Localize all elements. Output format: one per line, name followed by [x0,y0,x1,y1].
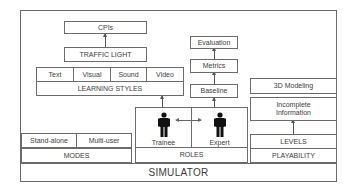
learning-style-video: Video [146,67,184,82]
bidirectional-arrow-icon [176,120,201,121]
arrow-up-icon [214,48,215,59]
playability-box: PLAYABILITY [250,148,337,163]
arrow-up-icon [105,34,106,47]
role-trainee: Trainee [135,107,192,148]
simulator-box: SIMULATOR [20,163,337,182]
arrow-up-icon [162,96,163,107]
metrics-box: Metrics [190,59,238,73]
learning-styles-box: LEARNING STYLES [36,81,184,96]
role-trainee-label: Trainee [136,139,191,146]
arrow-up-icon [214,98,215,107]
arrow-up-icon [293,120,294,134]
levels-box: LEVELS [250,134,337,149]
learning-style-sound: Sound [110,67,147,82]
traffic-light-box: TRAFFIC LIGHT [64,47,147,62]
learning-style-visual: Visual [73,67,111,82]
cpis-box: CPIs [64,21,147,34]
role-expert-label: Expert [192,139,247,146]
modes-box: MODES [21,148,132,163]
3d-modeling-box: 3D Modeling [250,78,337,94]
person-icon [158,112,170,137]
incomplete-information-box: Incomplete Information [250,97,337,121]
learning-style-text: Text [36,67,74,82]
baseline-box: Baseline [190,84,238,98]
role-expert: Expert [191,107,248,148]
roles-box: ROLES [135,147,248,163]
mode-multi-user: Multi-user [76,133,132,148]
arrow-up-icon [214,72,215,84]
person-icon [214,112,226,137]
mode-stand-alone: Stand-alone [21,133,77,148]
evaluation-box: Evaluation [190,36,238,49]
